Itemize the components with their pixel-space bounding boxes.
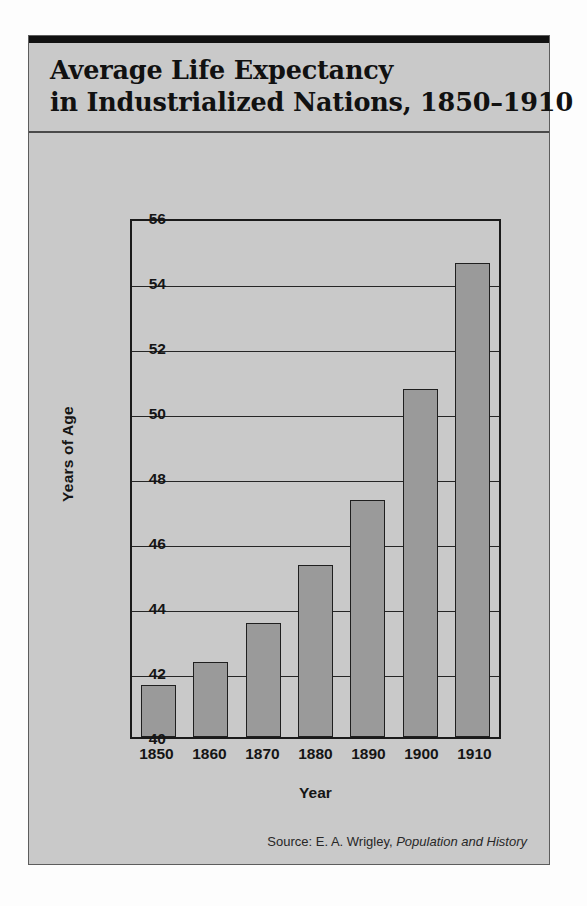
source-book-title: Population and History: [396, 834, 527, 849]
bar-slot: [342, 221, 394, 737]
chart-title: Average Life Expectancy in Industrialize…: [29, 43, 549, 128]
y-tick-label: 46: [106, 535, 166, 553]
bar[interactable]: [455, 263, 490, 738]
x-tick-label: 1910: [445, 745, 505, 763]
x-tick-label: 1880: [286, 745, 346, 763]
y-tick-label: 54: [106, 275, 166, 293]
bar-slot: [447, 221, 499, 737]
x-tick-label: 1900: [392, 745, 452, 763]
x-tick-label: 1870: [233, 745, 293, 763]
title-line-1: Average Life Expectancy: [50, 54, 549, 86]
y-tick-label: 50: [106, 405, 166, 423]
bar[interactable]: [350, 500, 385, 737]
plot-area: [130, 219, 501, 739]
bar[interactable]: [193, 662, 228, 737]
chart-area: Years of Age 404244464850525456 18501860…: [29, 133, 549, 866]
source-prefix: Source: E. A. Wrigley,: [267, 834, 392, 849]
x-tick-label: 1890: [339, 745, 399, 763]
bar[interactable]: [246, 623, 281, 737]
chart-card: Average Life Expectancy in Industrialize…: [28, 35, 550, 865]
x-axis-label: Year: [130, 784, 501, 802]
bar[interactable]: [298, 565, 333, 737]
bar[interactable]: [403, 389, 438, 737]
y-tick-label: 44: [106, 600, 166, 618]
bar-slot: [289, 221, 341, 737]
x-tick-label: 1850: [127, 745, 187, 763]
bars-group: [132, 221, 499, 737]
y-tick-label: 48: [106, 470, 166, 488]
y-tick-label: 56: [106, 210, 166, 228]
title-line-2: in Industrialized Nations, 1850–1910: [50, 86, 549, 118]
bar-slot: [237, 221, 289, 737]
y-axis-label: Years of Age: [59, 374, 77, 534]
page-root: Average Life Expectancy in Industrialize…: [0, 0, 587, 906]
title-top-rule: [29, 36, 549, 43]
y-tick-label: 42: [106, 665, 166, 683]
bar-slot: [184, 221, 236, 737]
bar-slot: [394, 221, 446, 737]
source-note: Source: E. A. Wrigley, Population and Hi…: [267, 834, 527, 849]
x-tick-label: 1860: [180, 745, 240, 763]
y-tick-label: 52: [106, 340, 166, 358]
